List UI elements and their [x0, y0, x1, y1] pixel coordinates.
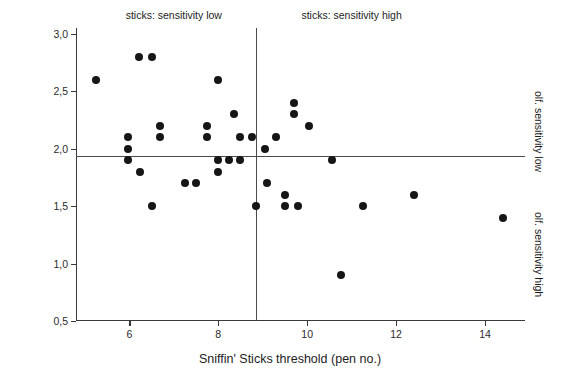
data-point: [294, 202, 302, 210]
scatter-plot-figure: 0,51,01,52,02,53,0 68101214 sticks: sens…: [0, 0, 580, 385]
data-point: [124, 145, 132, 153]
y-tick-label: 2,5: [53, 85, 68, 97]
data-point: [337, 271, 345, 279]
y-tick-mark: [71, 91, 76, 92]
plot-area: 0,51,01,52,02,53,0 68101214: [76, 28, 525, 321]
data-point: [290, 110, 298, 118]
data-point: [214, 76, 222, 84]
x-tick-label: 12: [390, 328, 402, 340]
data-point: [305, 122, 313, 130]
x-tick-label: 14: [479, 328, 491, 340]
data-point: [214, 168, 222, 176]
vertical-reference-line: [256, 28, 257, 321]
data-point: [236, 133, 244, 141]
data-point: [248, 133, 256, 141]
data-point: [281, 202, 289, 210]
data-point: [236, 156, 244, 164]
annotation-sticks-sensitivity-low: sticks: sensitivity low: [126, 9, 222, 21]
data-point: [263, 179, 271, 187]
annotation-olf-sensitivity-low: olf. sensitivity low: [533, 91, 545, 172]
y-tick-label: 3,0: [53, 28, 68, 40]
data-point: [272, 133, 280, 141]
data-point: [410, 191, 418, 199]
data-point: [499, 214, 507, 222]
data-point: [290, 99, 298, 107]
y-axis-line: [76, 28, 77, 321]
data-point: [148, 202, 156, 210]
data-point: [214, 156, 222, 164]
y-tick-mark: [71, 264, 76, 265]
x-tick-mark: [307, 321, 308, 326]
annotation-olf-sensitivity-high: olf. sensitivity high: [533, 212, 545, 297]
data-point: [181, 179, 189, 187]
x-tick-mark: [218, 321, 219, 326]
y-tick-mark: [71, 206, 76, 207]
y-tick-label: 2,0: [53, 143, 68, 155]
x-tick-label: 8: [215, 328, 221, 340]
data-point: [135, 53, 143, 61]
data-point: [359, 202, 367, 210]
data-point: [156, 133, 164, 141]
data-point: [252, 202, 260, 210]
data-point: [156, 122, 164, 130]
data-point: [203, 122, 211, 130]
x-axis-line: [76, 320, 525, 321]
data-point: [192, 179, 200, 187]
data-point: [92, 76, 100, 84]
x-axis-title: Sniffin' Sticks threshold (pen no.): [0, 352, 580, 366]
y-tick-mark: [71, 149, 76, 150]
data-point: [124, 156, 132, 164]
data-point: [148, 53, 156, 61]
x-tick-mark: [396, 321, 397, 326]
y-tick-mark: [71, 34, 76, 35]
y-tick-label: 0,5: [53, 315, 68, 327]
y-tick-label: 1,0: [53, 258, 68, 270]
y-tick-mark: [71, 321, 76, 322]
data-point: [136, 168, 144, 176]
data-point: [281, 191, 289, 199]
y-tick-label: 1,5: [53, 200, 68, 212]
data-point: [261, 145, 269, 153]
data-point: [225, 156, 233, 164]
annotation-sticks-sensitivity-high: sticks: sensitivity high: [301, 9, 401, 21]
x-tick-mark: [485, 321, 486, 326]
x-tick-mark: [129, 321, 130, 326]
horizontal-reference-line: [76, 156, 525, 157]
x-tick-label: 6: [126, 328, 132, 340]
data-point: [328, 156, 336, 164]
data-point: [203, 133, 211, 141]
data-point: [124, 133, 132, 141]
x-tick-label: 10: [301, 328, 313, 340]
data-point: [230, 110, 238, 118]
